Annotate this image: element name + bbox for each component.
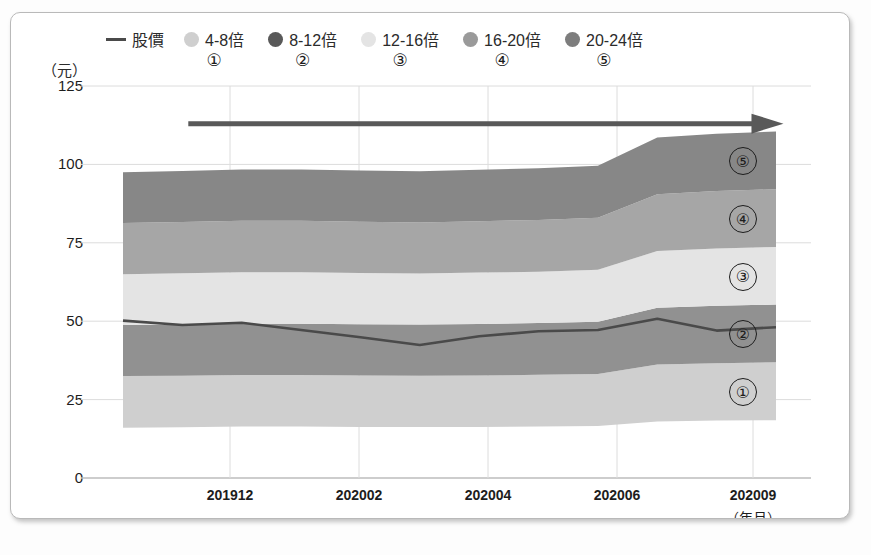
trend-arrow-head (751, 114, 783, 134)
chart-card: 股價4-8倍①8-12倍②12-16倍③16-20倍④20-24倍⑤ （元） 1… (10, 12, 850, 519)
band-number-marker: ④ (729, 205, 757, 233)
band-number-marker: ③ (729, 263, 757, 291)
chart-plot-area (11, 13, 849, 518)
chart-screenshot: 股價4-8倍①8-12倍②12-16倍③16-20倍④20-24倍⑤ （元） 1… (0, 0, 871, 555)
